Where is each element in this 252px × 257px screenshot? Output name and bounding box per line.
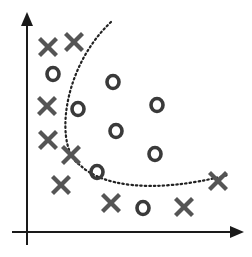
o-marker-icon bbox=[149, 148, 161, 161]
o-marker-icon bbox=[137, 202, 149, 215]
x-marker-icon bbox=[177, 200, 191, 214]
decision-boundary-diagram bbox=[0, 0, 252, 257]
y-axis-arrow-icon bbox=[21, 12, 33, 26]
o-marker-icon bbox=[47, 68, 59, 81]
x-marker-icon bbox=[64, 148, 78, 162]
x-marker-icon bbox=[54, 178, 68, 192]
x-marker-icon bbox=[104, 196, 118, 210]
class-o-points bbox=[47, 68, 163, 215]
decision-boundary-curve bbox=[65, 22, 228, 186]
o-marker-icon bbox=[151, 99, 163, 112]
o-marker-icon bbox=[72, 103, 84, 116]
x-axis-arrow-icon bbox=[230, 226, 244, 238]
x-marker-icon bbox=[211, 174, 225, 188]
x-marker-icon bbox=[40, 99, 54, 113]
x-marker-icon bbox=[67, 35, 81, 49]
x-marker-icon bbox=[41, 133, 55, 147]
class-x-points bbox=[40, 35, 225, 214]
o-marker-icon bbox=[107, 76, 119, 89]
o-marker-icon bbox=[110, 125, 122, 138]
x-marker-icon bbox=[41, 40, 55, 54]
